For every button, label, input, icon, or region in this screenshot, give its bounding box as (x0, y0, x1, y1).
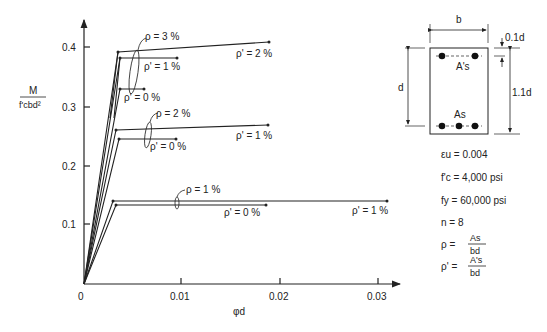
svg-text:ρ =: ρ = (441, 239, 455, 250)
svg-text:f'cbd²: f'cbd² (19, 100, 41, 110)
label-rho2: ρ = 2 % (156, 108, 190, 119)
curve-rho3-rp2 (84, 42, 269, 284)
param-rho-prime: ρ' = A's bd (441, 255, 486, 278)
param-eps-u: εu = 0.004 (441, 149, 488, 160)
x-tick-0.03: 0.03 (367, 291, 387, 302)
x-axis-label: φd (233, 306, 245, 317)
y-tick-0.2: 0.2 (62, 161, 76, 172)
curve-rho3-rp0 (84, 89, 144, 284)
label-rho3-rp0: ρ' = 0 % (124, 92, 160, 103)
moment-curvature-figure: 0.1 0.2 0.3 0.4 0 0.01 0.02 0.03 φd M f'… (0, 0, 547, 332)
label-rho2-rp1: ρ' = 1 % (236, 130, 272, 141)
label-rho2-rp0: ρ' = 0 % (150, 141, 186, 152)
label-rho1-rp0: ρ' = 0 % (224, 207, 260, 218)
x-tick-0.01: 0.01 (170, 291, 190, 302)
label-rho3-rp2: ρ' = 2 % (236, 48, 272, 59)
x-tick-0: 0 (78, 291, 84, 302)
svg-text:As: As (470, 233, 481, 243)
param-n: n = 8 (441, 217, 464, 228)
y-tick-0.1: 0.1 (62, 219, 76, 230)
dim-h: 1.1d (512, 87, 531, 98)
label-rho3-rp1: ρ' = 1 % (144, 61, 180, 72)
param-fy: fy = 60,000 psi (441, 195, 506, 206)
svg-text:M: M (29, 85, 37, 96)
svg-text:bd: bd (470, 268, 480, 278)
label-as-bottom: As (454, 109, 466, 120)
param-rho: ρ = As bd (441, 233, 486, 256)
svg-text:ρ' =: ρ' = (441, 261, 457, 272)
label-as-top: A's (456, 61, 470, 72)
svg-text:A's: A's (470, 255, 483, 265)
axes (84, 20, 400, 284)
x-tick-0.02: 0.02 (269, 291, 289, 302)
dim-d: d (398, 82, 404, 93)
label-rho3: ρ = 3 % (145, 31, 179, 42)
y-tick-0.3: 0.3 (62, 102, 76, 113)
y-tick-0.4: 0.4 (62, 42, 76, 53)
dim-top-cover: 0.1d (505, 32, 524, 43)
param-fc: f'c = 4,000 psi (441, 172, 503, 183)
label-rho1-rp1: ρ' = 1 % (352, 205, 388, 216)
label-rho1: ρ = 1 % (186, 184, 220, 195)
dim-b: b (456, 14, 462, 25)
y-axis-label: M f'cbd² (19, 85, 46, 110)
